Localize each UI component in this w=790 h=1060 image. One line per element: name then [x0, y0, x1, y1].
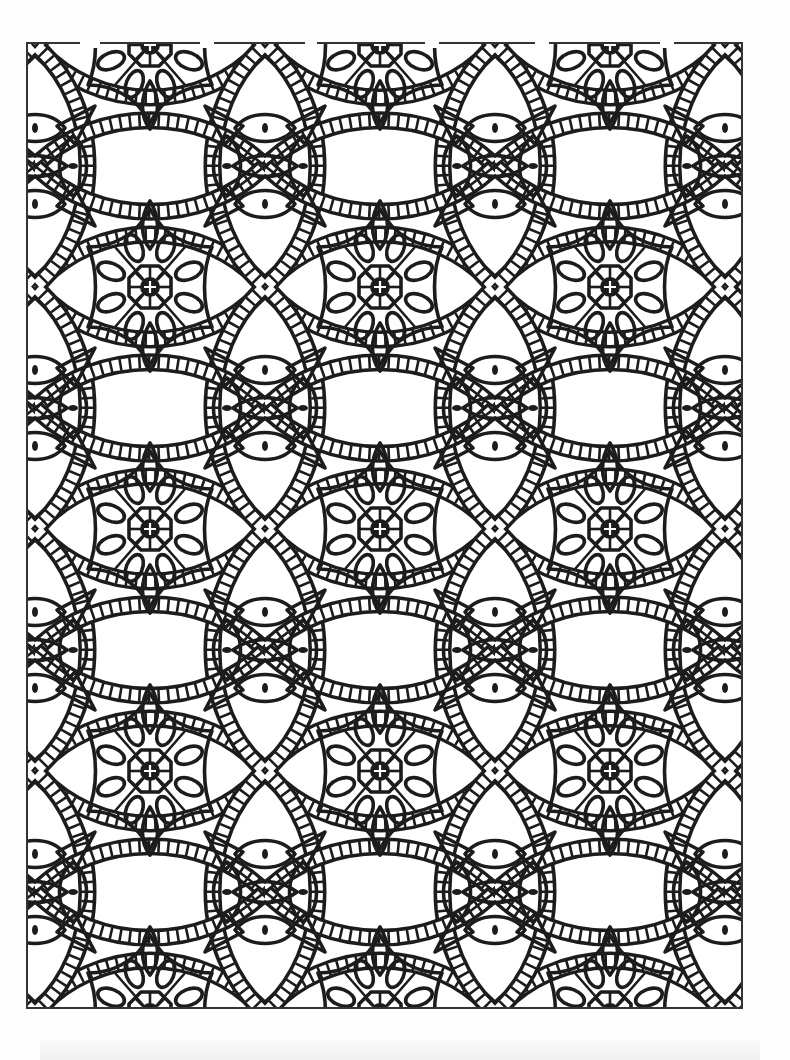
pattern-area — [27, 43, 742, 1008]
pattern-artwork — [0, 0, 790, 1060]
page-bottom-margin — [40, 1040, 760, 1060]
coloring-page — [0, 0, 790, 1060]
